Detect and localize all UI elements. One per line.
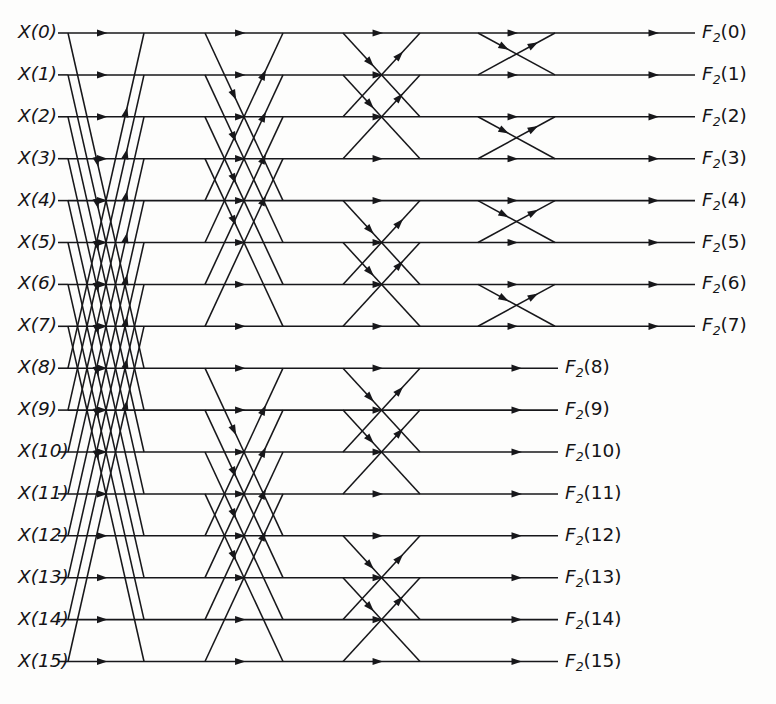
output-label-f2-12: F2(12): [565, 524, 622, 548]
flow-arrow-icon: [235, 323, 246, 330]
flow-arrow-icon: [235, 197, 246, 204]
input-label-x-5: X(5): [17, 231, 57, 252]
flow-arrow-icon: [373, 71, 384, 78]
flow-arrow-icon: [649, 155, 660, 162]
flow-arrow-icon: [373, 407, 384, 414]
flow-arrow-icon: [373, 448, 384, 455]
flow-arrow-icon: [373, 490, 384, 497]
flow-arrow-icon: [235, 407, 246, 414]
flow-arrow-icon: [527, 210, 538, 218]
output-labels-layer: F2(0)F2(1)F2(2)F2(3)F2(4)F2(5)F2(6)F2(7)…: [565, 21, 747, 673]
flow-arrow-icon: [512, 365, 523, 372]
flow-arrow-icon: [527, 126, 538, 134]
output-label-f2-10: F2(10): [565, 440, 622, 464]
flow-arrow-icon: [498, 125, 509, 133]
flow-arrow-icon: [508, 155, 518, 162]
flow-arrow-icon: [512, 574, 523, 581]
flow-arrow-icon: [97, 532, 108, 539]
flow-arrow-icon: [121, 149, 128, 160]
output-label-f2-0: F2(0): [702, 21, 747, 45]
flow-arrow-icon: [512, 490, 523, 497]
flow-arrow-icon: [373, 239, 384, 246]
output-label-f2-9: F2(9): [565, 398, 610, 422]
flow-arrow-icon: [649, 239, 660, 246]
flow-arrow-icon: [527, 42, 538, 50]
output-label-f2-6: F2(6): [702, 272, 747, 296]
input-label-x-6: X(6): [17, 272, 57, 293]
flow-arrow-icon: [527, 294, 538, 302]
input-label-x-13: X(13): [17, 566, 69, 587]
flow-arrow-icon: [512, 658, 523, 665]
flow-arrow-icon: [508, 323, 518, 330]
flow-arrow-icon: [97, 113, 108, 120]
input-label-x-0: X(0): [17, 21, 57, 42]
flow-arrow-icon: [235, 616, 246, 623]
input-label-x-3: X(3): [17, 147, 57, 168]
flow-arrow-icon: [373, 197, 384, 204]
flow-arrow-icon: [235, 29, 246, 36]
fft-butterfly-figure: X(0)X(1)X(2)X(3)X(4)X(5)X(6)X(7)X(8)X(9)…: [0, 0, 776, 704]
output-label-f2-1: F2(1): [702, 63, 747, 87]
output-label-f2-4: F2(4): [702, 189, 747, 213]
input-label-x-8: X(8): [17, 356, 57, 377]
flow-arrow-icon: [235, 365, 246, 372]
flow-arrow-icon: [373, 281, 384, 288]
input-label-x-14: X(14): [17, 608, 69, 629]
flow-arrow-icon: [508, 71, 518, 78]
flow-arrow-icon: [373, 616, 384, 623]
input-label-x-9: X(9): [17, 398, 57, 419]
flow-arrow-icon: [508, 197, 518, 204]
flow-arrow-icon: [93, 449, 100, 460]
flow-arrow-icon: [121, 191, 128, 202]
flow-arrow-icon: [121, 107, 128, 118]
flow-arrow-icon: [235, 239, 246, 246]
output-label-f2-3: F2(3): [702, 147, 747, 171]
flow-arrow-icon: [373, 574, 384, 581]
flow-arrow-icon: [373, 365, 384, 372]
flow-arrow-icon: [97, 616, 108, 623]
flow-arrow-icon: [235, 532, 246, 539]
flow-arrow-icon: [373, 658, 384, 665]
flow-arrow-icon: [235, 448, 246, 455]
flow-arrow-icon: [93, 366, 100, 377]
flow-arrow-icon: [373, 155, 384, 162]
input-label-x-4: X(4): [17, 189, 57, 210]
signal-flow-graph: X(0)X(1)X(2)X(3)X(4)X(5)X(6)X(7)X(8)X(9)…: [0, 0, 776, 704]
output-label-f2-15: F2(15): [565, 650, 622, 674]
output-label-f2-7: F2(7): [702, 314, 747, 338]
input-label-x-1: X(1): [17, 63, 57, 84]
flow-arrow-icon: [512, 616, 523, 623]
flow-arrow-icon: [235, 71, 246, 78]
output-label-f2-8: F2(8): [565, 356, 610, 380]
output-label-f2-2: F2(2): [702, 105, 747, 129]
flow-arrow-icon: [508, 113, 518, 120]
flow-arrow-icon: [649, 113, 660, 120]
flow-arrow-icon: [93, 407, 100, 418]
flow-arrow-icon: [649, 29, 660, 36]
flow-arrow-icon: [97, 574, 108, 581]
flow-arrow-icon: [97, 155, 108, 162]
flow-arrow-icon: [235, 281, 246, 288]
output-label-f2-14: F2(14): [565, 608, 622, 632]
flow-arrow-icon: [373, 113, 384, 120]
flow-arrow-icon: [121, 232, 128, 243]
flow-arrow-icon: [649, 71, 660, 78]
flow-arrow-icon: [373, 532, 384, 539]
flow-arrow-icon: [512, 532, 523, 539]
flow-arrow-icon: [373, 29, 384, 36]
flow-arrow-icon: [649, 323, 660, 330]
flow-arrow-icon: [235, 490, 246, 497]
input-label-x-12: X(12): [17, 524, 69, 545]
input-labels-layer: X(0)X(1)X(2)X(3)X(4)X(5)X(6)X(7)X(8)X(9)…: [17, 21, 69, 671]
output-label-f2-13: F2(13): [565, 566, 622, 590]
flow-arrow-icon: [498, 42, 509, 50]
flow-arrow-icon: [97, 658, 108, 665]
input-label-x-15: X(15): [17, 650, 69, 671]
flow-arrow-icon: [235, 658, 246, 665]
input-label-x-10: X(10): [17, 440, 69, 461]
flow-arrow-icon: [498, 209, 509, 217]
flow-arrow-icon: [229, 424, 237, 435]
flow-arrow-icon: [512, 448, 523, 455]
output-label-f2-11: F2(11): [565, 482, 622, 506]
flow-arrow-icon: [235, 113, 246, 120]
